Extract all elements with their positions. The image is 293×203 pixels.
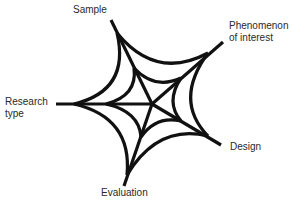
spoke-sample [111, 20, 152, 104]
outer-ring-strand-4 [74, 33, 120, 104]
outer-ring-strand-1 [191, 53, 208, 136]
web-strands [56, 20, 223, 186]
label-design: Design [230, 141, 261, 153]
label-sample: Sample [73, 4, 107, 16]
label-phenomenon-of-interest: Phenomenon of interest [229, 20, 289, 44]
label-research-type: Research type [5, 96, 48, 120]
spider-web-diagram: Sample Phenomenon of interest Design Eva… [0, 0, 293, 203]
label-evaluation: Evaluation [101, 187, 148, 199]
outer-ring-strand-3 [74, 104, 127, 175]
spoke-phenomenon [152, 42, 223, 104]
